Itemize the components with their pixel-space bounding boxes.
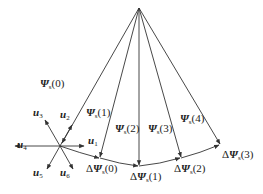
flux-vectors [62, 8, 220, 165]
voltage-label-5: u5 [33, 166, 43, 180]
flux-label-0: Ψs(0) [40, 77, 65, 91]
delta-flux-label-3: ΔΨs(3) [222, 148, 254, 162]
flux-label-4: Ψs(4) [180, 112, 205, 126]
flux-label-3: Ψs(3) [148, 122, 173, 136]
delta-labels: ΔΨs(0)ΔΨs(1)ΔΨs(2)ΔΨs(3) [86, 148, 254, 184]
delta-flux-label-2: ΔΨs(2) [174, 162, 206, 176]
voltage-label-6: u6 [60, 166, 70, 180]
voltage-label-3: u3 [33, 106, 43, 120]
flux-vector-diagram: Ψs(0)Ψs(1)Ψs(2)Ψs(3)Ψs(4) ΔΨs(0)ΔΨs(1)ΔΨ… [0, 0, 263, 194]
flux-label-2: Ψs(2) [115, 122, 140, 136]
voltage-label-2: u2 [60, 108, 70, 122]
flux-label-1: Ψs(1) [86, 106, 111, 120]
flux-labels: Ψs(0)Ψs(1)Ψs(2)Ψs(3)Ψs(4) [40, 77, 205, 136]
voltage-label-1: u1 [88, 134, 98, 148]
delta-flux-label-0: ΔΨs(0) [86, 162, 118, 176]
voltage-label-4: u4 [17, 138, 27, 152]
delta-flux-label-1: ΔΨs(1) [130, 170, 162, 184]
